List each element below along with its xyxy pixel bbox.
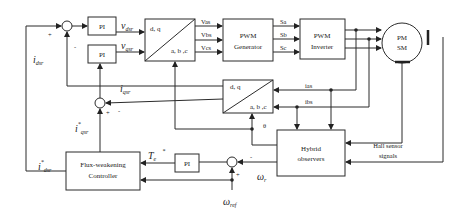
pwm-generator-label-2: Generator — [234, 43, 263, 51]
sc-label: Sc — [280, 44, 287, 51]
hybrid-observers-label-1: Hybrid — [301, 145, 321, 153]
pi-q-block: PI — [88, 45, 116, 63]
pi-d-block: PI — [88, 17, 116, 35]
hall-sensor-label-2: signals — [379, 152, 398, 159]
flux-weakening-label-2: Controller — [89, 172, 118, 180]
flux-weakening-label-1: Flux-weakening — [80, 161, 126, 169]
abc-to-dq-top-label: d, q — [230, 83, 241, 91]
pwm-inverter-block: PWM Inverter — [300, 19, 345, 59]
omega-r-label: ωr — [257, 171, 267, 183]
dq-to-abc-bottom-label: a, b ,c — [171, 47, 188, 55]
sb-label: Sb — [280, 31, 287, 38]
motor-label-1: PM — [397, 34, 408, 42]
dq-to-abc-block: d, q a, b ,c — [145, 19, 195, 61]
minus-sign-d: - — [74, 43, 76, 50]
sa-label: Sa — [280, 18, 287, 25]
pwm-generator-block: PWM Generator — [223, 19, 273, 61]
dq-to-abc-top-label: d, q — [150, 25, 161, 33]
pi-speed-block: PI — [175, 154, 199, 172]
pi-speed-label: PI — [184, 160, 191, 168]
pmsm-control-diagram: PI PI d, q a, b ,c PWM Generator PWM Inv… — [0, 0, 467, 218]
pwm-generator-label-1: PWM — [240, 32, 258, 40]
pwm-inverter-label-1: PWM — [314, 32, 332, 40]
plus-sign-q: + — [106, 109, 110, 116]
minus-sign-q: - — [118, 107, 120, 114]
iqsr-feedback-line — [106, 99, 223, 103]
idsr-label: idsr — [33, 54, 44, 66]
hybrid-observers-label-2: observers — [298, 155, 325, 163]
vbs-label: Vbs — [201, 31, 212, 38]
vdsr-label: vdsr — [121, 20, 134, 32]
theta-label: θ — [263, 122, 266, 129]
hall-signal-line-1 — [346, 63, 402, 143]
minus-sign-speed: - — [250, 153, 252, 160]
hall-sensor-label-1: Hall sensor — [373, 142, 403, 149]
pi-d-label: PI — [99, 23, 106, 31]
pi-q-label: PI — [99, 51, 106, 59]
vas-label: Vas — [201, 18, 211, 25]
hybrid-observers-block: Hybrid observers — [277, 130, 345, 176]
abc-to-dq-block: d, q a, b ,c — [223, 80, 273, 113]
sum-junction-speed — [227, 157, 237, 167]
te-ref-label: Te* — [148, 148, 165, 162]
sum-junction-q — [95, 98, 105, 108]
vqsr-label: vqsr — [121, 40, 134, 52]
pmsm-motor: PM SM — [382, 23, 428, 63]
motor-label-2: SM — [397, 44, 408, 52]
omega-ref-label: ωref — [223, 196, 238, 208]
iqsr-ref-label: i*qsr — [75, 121, 89, 135]
ibs-label: ibs — [305, 98, 313, 105]
idsr-ref-label: i*dsr — [38, 159, 52, 173]
idsr-ref-line — [26, 26, 66, 171]
plus-sign-speed: + — [236, 171, 240, 178]
flux-weakening-controller-block: Flux-weakening Controller — [66, 152, 140, 190]
theta-to-abc-dq-line — [252, 114, 277, 145]
sum-junction-d — [62, 21, 72, 31]
abc-to-dq-bottom-label: a, b ,c — [250, 103, 267, 111]
pwm-inverter-label-2: Inverter — [311, 43, 334, 51]
iqsr-label: iqsr — [120, 83, 131, 95]
plus-sign-d: + — [48, 31, 52, 38]
ias-label: ias — [305, 82, 313, 89]
vcs-label: Vcs — [201, 44, 212, 51]
